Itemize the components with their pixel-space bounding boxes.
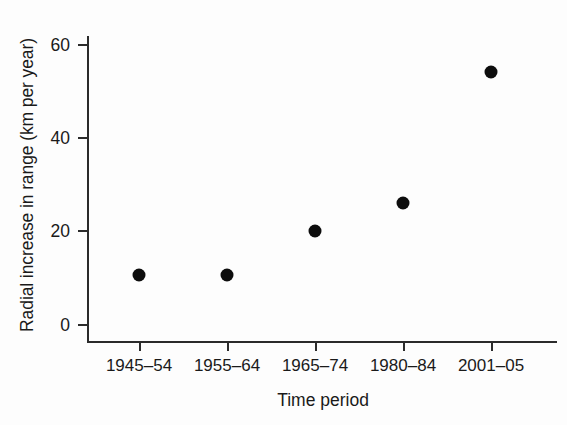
data-point [485, 66, 498, 79]
y-axis-tick-label-20: 20 [10, 221, 70, 242]
x-axis-tick-1 [139, 342, 141, 351]
y-axis-tick-0 [78, 324, 87, 326]
x-axis-tick-label-5: 2001–05 [436, 356, 546, 376]
y-axis-tick-label-0: 0 [10, 315, 70, 336]
data-point [221, 269, 234, 282]
y-axis-tick-40 [78, 137, 87, 139]
x-axis-tick-4 [403, 342, 405, 351]
y-axis-tick-60 [78, 44, 87, 46]
scatter-chart-figure: Radial increase in range (km per year) 0… [0, 0, 567, 425]
y-axis-tick-label-60: 60 [10, 35, 70, 56]
x-axis-tick-2 [227, 342, 229, 351]
x-axis-line [87, 341, 557, 343]
x-axis-tick-3 [315, 342, 317, 351]
y-axis-tick-20 [78, 230, 87, 232]
y-axis-title: Radial increase in range (km per year) [10, 5, 44, 365]
data-point [397, 196, 410, 209]
x-axis-title: Time period [88, 390, 558, 411]
x-axis-tick-5 [491, 342, 493, 351]
y-axis-tick-label-40: 40 [10, 128, 70, 149]
data-point [309, 224, 322, 237]
y-axis-line [87, 36, 89, 343]
data-point [133, 269, 146, 282]
